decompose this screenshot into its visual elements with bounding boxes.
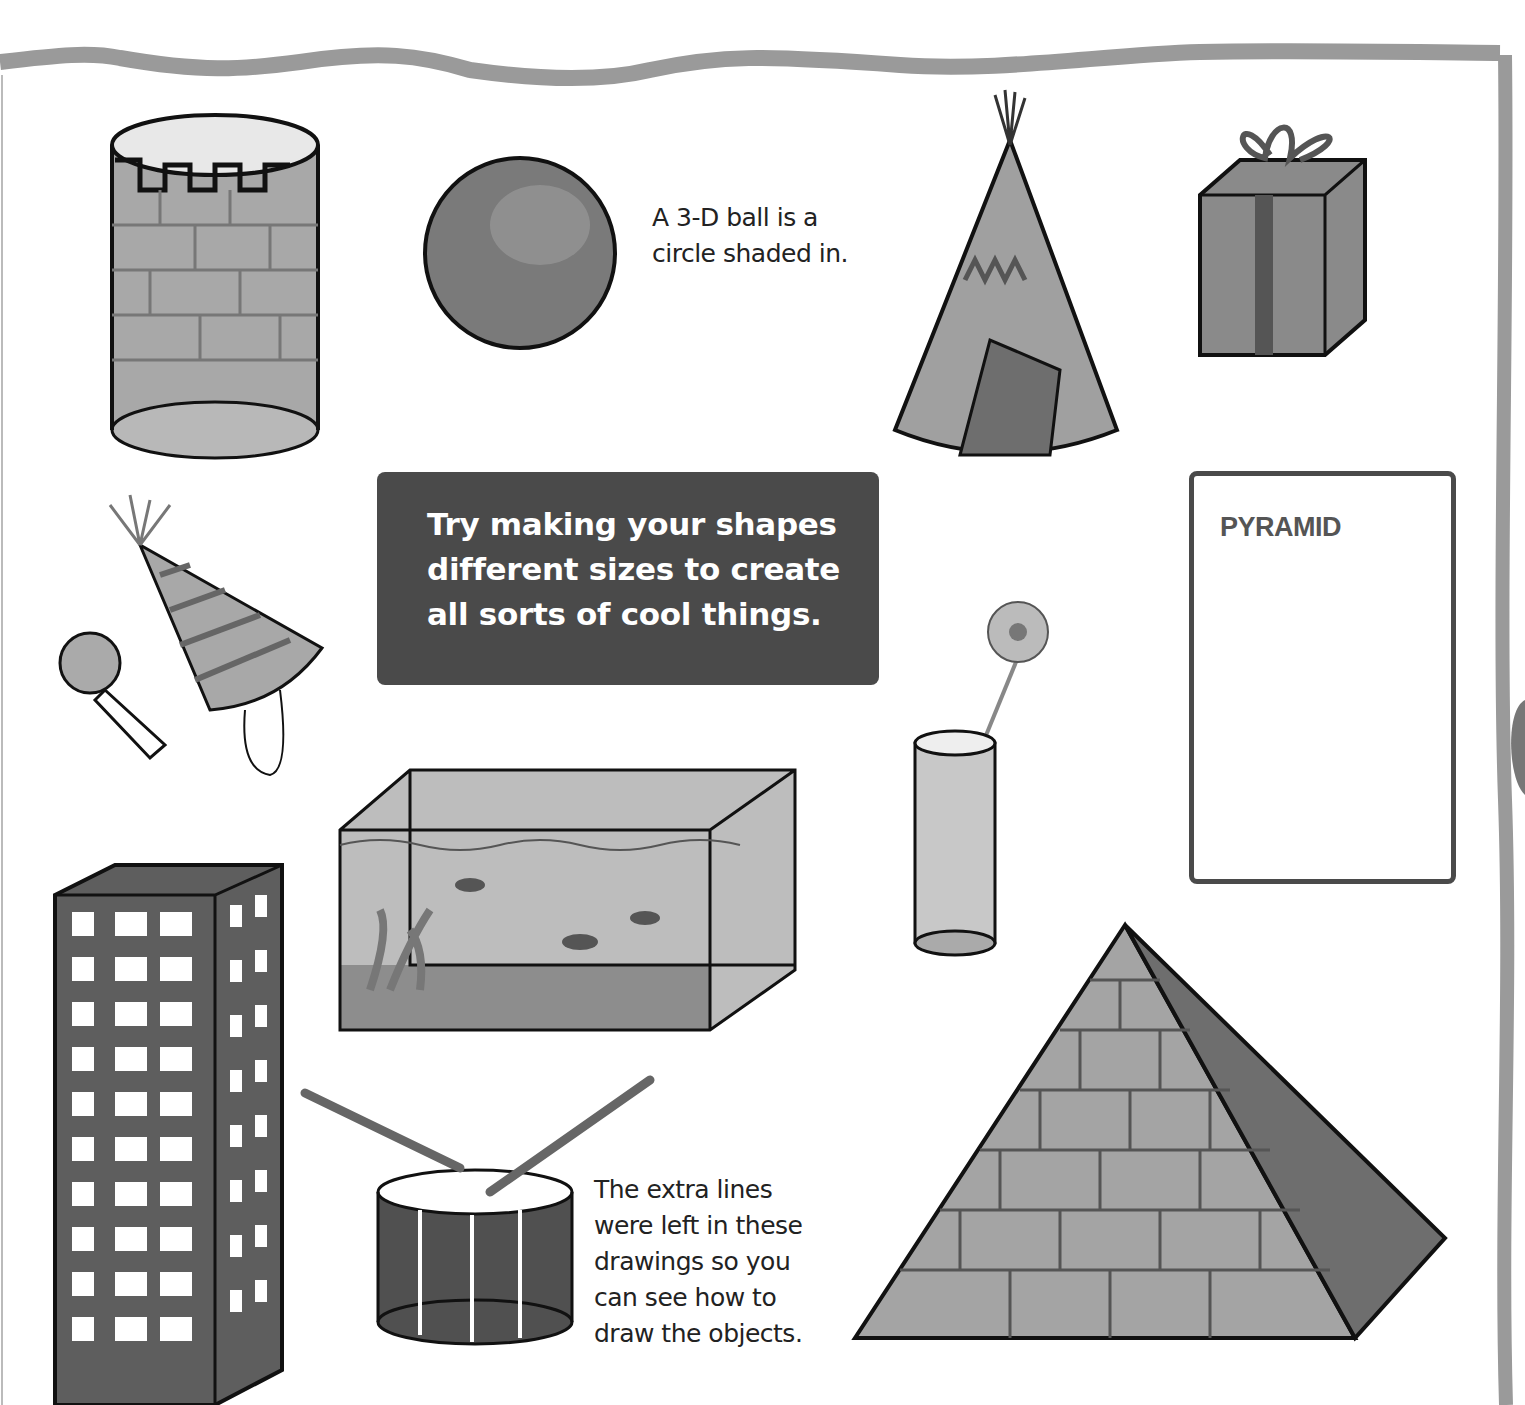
extra-lines-caption-line-3: drawings so you: [594, 1244, 803, 1280]
gift-box-cube: [1200, 128, 1365, 355]
pyramid-card-title: PYRAMID: [1220, 512, 1341, 543]
ball-caption-line-1: A 3-D ball is a: [652, 200, 848, 236]
extra-lines-caption: The extra lines were left in these drawi…: [594, 1172, 803, 1352]
ball-caption-line-2: circle shaded in.: [652, 236, 848, 272]
side-tab: [1511, 700, 1525, 795]
flower-in-glass-vase: [915, 602, 1048, 955]
tip-box: Try making your shapes different sizes t…: [377, 472, 879, 685]
pyramid-card: PYRAMID: [1189, 471, 1456, 884]
party-hat-and-blower: [60, 495, 322, 775]
extra-lines-caption-line-2: were left in these: [594, 1208, 803, 1244]
tip-line-3: all sorts of cool things.: [427, 592, 879, 637]
fish-tank: [340, 770, 795, 1030]
extra-lines-caption-line-1: The extra lines: [594, 1172, 803, 1208]
tip-line-1: Try making your shapes: [427, 502, 879, 547]
extra-lines-caption-line-5: draw the objects.: [594, 1316, 803, 1352]
page-frame-right: [1502, 55, 1507, 1405]
brick-pyramid: [855, 925, 1445, 1338]
extra-lines-caption-line-4: can see how to: [594, 1280, 803, 1316]
skyscraper-prism: [55, 865, 282, 1405]
shaded-ball: [425, 158, 615, 348]
ball-caption: A 3-D ball is a circle shaded in.: [652, 200, 848, 272]
castle-tower-cylinder: [112, 115, 318, 458]
page-frame: [0, 51, 1500, 78]
tip-line-2: different sizes to create: [427, 547, 879, 592]
teepee-cone: [895, 90, 1117, 455]
